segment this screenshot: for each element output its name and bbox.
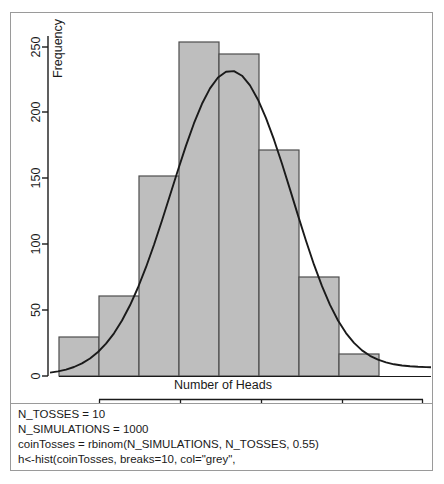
y-tick-label-200: 200 [29, 102, 43, 123]
code-line: N_SIMULATIONS = 1000 [18, 422, 432, 437]
figure-frame: 250 200 150 100 50 0 Frequency [10, 12, 433, 470]
y-tick-label-150: 150 [29, 168, 43, 189]
histogram-svg: 250 200 150 100 50 0 Frequency [11, 13, 432, 402]
y-axis-title: Frequency [51, 18, 65, 78]
histogram-bar [299, 277, 339, 376]
code-listing: N_TOSSES = 10 N_SIMULATIONS = 1000 coinT… [10, 403, 433, 471]
y-tick-label-0: 0 [29, 372, 43, 379]
histogram-bar [99, 296, 139, 376]
y-tick-label-100: 100 [29, 234, 43, 255]
x-axis-title: Number of Heads [174, 378, 272, 392]
code-line: h<-hist(coinTosses, breaks=10, col="grey… [18, 452, 432, 467]
histogram-bar [179, 42, 219, 376]
histogram-bars [59, 42, 379, 376]
code-line: coinTosses = rbinom(N_SIMULATIONS, N_TOS… [18, 437, 432, 452]
histogram-bar [139, 176, 179, 376]
histogram-bar [259, 150, 299, 376]
screenshot-root: 250 200 150 100 50 0 Frequency [0, 0, 444, 484]
code-line: N_TOSSES = 10 [18, 407, 432, 422]
histogram-bar [219, 54, 259, 376]
histogram-plot: 250 200 150 100 50 0 Frequency [11, 13, 432, 402]
y-tick-label-50: 50 [29, 303, 43, 317]
y-axis: 250 200 150 100 50 0 Frequency [29, 18, 65, 379]
y-tick-label-250: 250 [29, 37, 43, 58]
